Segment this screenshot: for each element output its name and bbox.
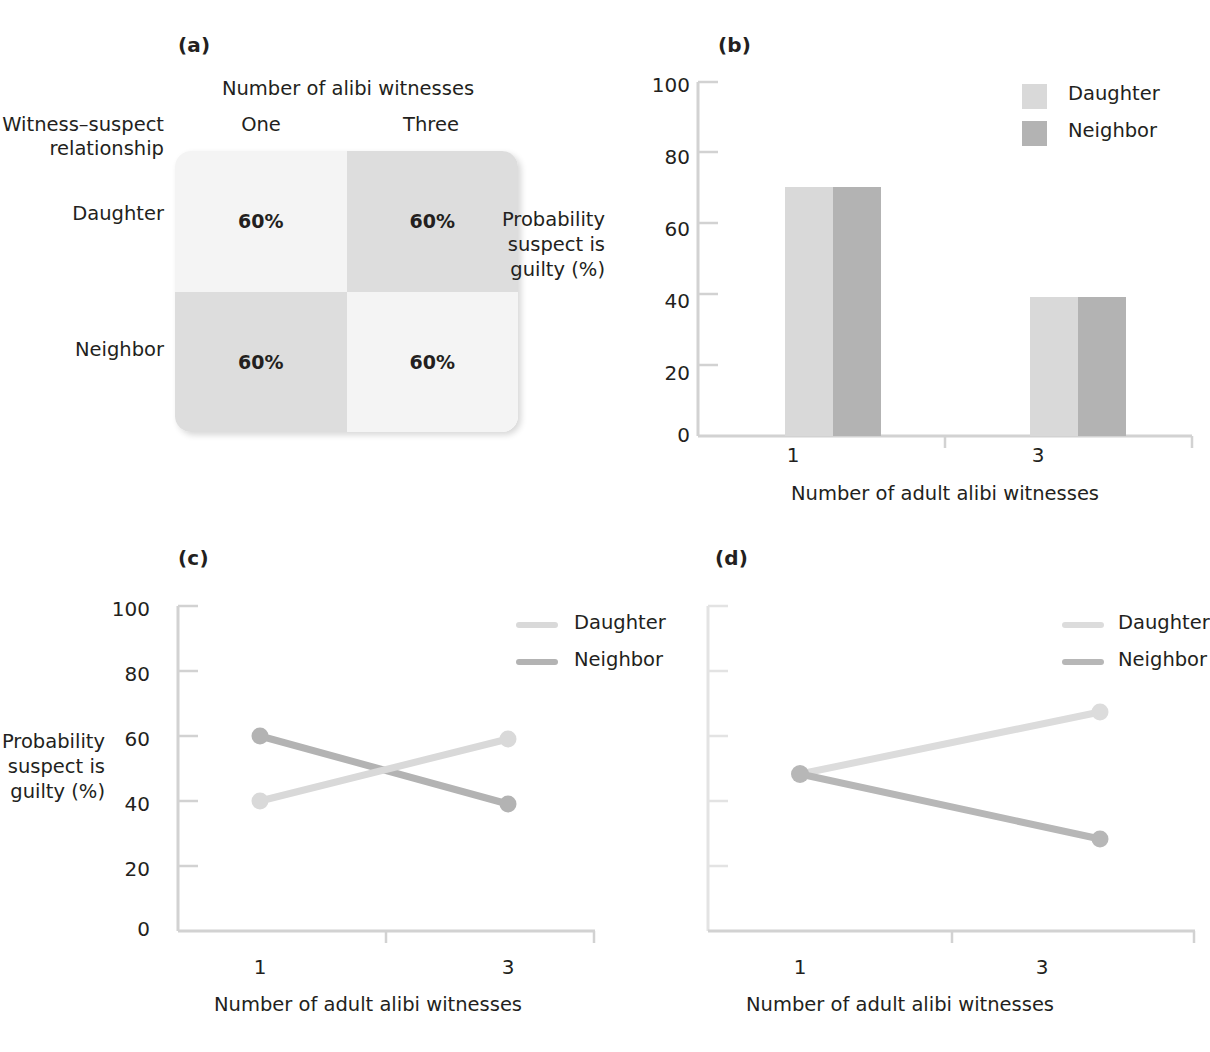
legend-label-neighbor-c: Neighbor <box>574 648 663 672</box>
legend-line-neighbor-c <box>516 659 558 665</box>
heatmap-cell-daughter-three: 60% <box>347 151 519 292</box>
panel-c-label: (c) <box>178 546 209 570</box>
panel-a-row-header-neighbor: Neighbor <box>0 338 164 362</box>
panel-c-xtick-1: 1 <box>180 955 340 979</box>
point-neighbor-c-3 <box>500 796 517 813</box>
panel-c-ytick-100: 100 <box>70 597 150 621</box>
legend-swatch-daughter-b <box>1022 84 1047 109</box>
point-daughter-d-3 <box>1092 704 1109 721</box>
panel-d-xlabel: Number of adult alibi witnesses <box>680 993 1120 1017</box>
panel-b-ylabel-line3: guilty (%) <box>500 257 605 282</box>
line-daughter-d <box>800 712 1100 774</box>
panel-a-column-header-three: Three <box>348 113 514 137</box>
panel-b-ylabel-line2: suspect is <box>500 232 605 257</box>
page-edge-artifact-top <box>188 0 378 9</box>
heatmap-cell-neighbor-three: 60% <box>347 292 519 433</box>
bar-daughter-1 <box>785 187 833 436</box>
line-neighbor-d <box>800 774 1100 839</box>
point-neighbor-c-1 <box>252 728 269 745</box>
panel-d-xtick-3: 3 <box>962 955 1122 979</box>
panel-a-row-group-title-line1: Witness–suspect <box>0 113 164 137</box>
panel-c-plot-area <box>170 604 600 954</box>
point-neighbor-d-3 <box>1092 831 1109 848</box>
panel-a-column-header-one: One <box>178 113 344 137</box>
panel-c-xlabel: Number of adult alibi witnesses <box>148 993 588 1017</box>
panel-d-label: (d) <box>715 546 748 570</box>
legend-swatch-neighbor-b <box>1022 121 1047 146</box>
panel-c-ytick-80: 80 <box>70 662 150 686</box>
legend-label-daughter-c: Daughter <box>574 611 666 635</box>
panel-b-ytick-80: 80 <box>610 145 690 169</box>
panel-b-xtick-3: 3 <box>948 443 1128 467</box>
panel-b-xlabel: Number of adult alibi witnesses <box>690 482 1200 506</box>
bar-neighbor-3 <box>1078 297 1126 436</box>
heatmap-cell-neighbor-one: 60% <box>175 292 347 433</box>
panel-d-xtick-1: 1 <box>720 955 880 979</box>
legend-line-daughter-d <box>1062 622 1104 628</box>
page-edge-artifact-bottom <box>185 1040 605 1052</box>
panel-b-ytick-20: 20 <box>610 361 690 385</box>
bar-daughter-3 <box>1030 297 1078 436</box>
panel-c-ylabel-line2: suspect is <box>0 754 105 779</box>
bar-neighbor-1 <box>833 187 881 436</box>
panel-c-xtick-3: 3 <box>428 955 588 979</box>
panel-a-row-header-daughter: Daughter <box>0 202 164 226</box>
panel-b-ytick-60: 60 <box>610 217 690 241</box>
panel-a-label: (a) <box>178 33 210 57</box>
panel-a-heatmap: 60% 60% 60% 60% <box>175 151 518 432</box>
panel-b-label: (b) <box>718 33 751 57</box>
legend-line-daughter-c <box>516 622 558 628</box>
panel-b-ytick-40: 40 <box>610 289 690 313</box>
panel-c-ylabel-line1: Probability <box>0 729 105 754</box>
legend-label-daughter-b: Daughter <box>1068 82 1160 106</box>
panel-c-ytick-20: 20 <box>70 857 150 881</box>
panel-a-row-group-title-line2: relationship <box>0 137 164 161</box>
panel-c-ylabel-line3: guilty (%) <box>0 779 105 804</box>
panel-b-ytick-0: 0 <box>610 423 690 447</box>
legend-label-neighbor-d: Neighbor <box>1118 648 1207 672</box>
legend-label-daughter-d: Daughter <box>1118 611 1210 635</box>
heatmap-cell-daughter-one: 60% <box>175 151 347 292</box>
point-shared-d-1 <box>791 765 809 783</box>
point-daughter-c-3 <box>500 731 517 748</box>
legend-line-neighbor-d <box>1062 659 1104 665</box>
panel-a-column-group-title: Number of alibi witnesses <box>178 77 518 101</box>
panel-c-ytick-0: 0 <box>70 917 150 941</box>
panel-b-ylabel-line1: Probability <box>500 207 605 232</box>
panel-b-xtick-1: 1 <box>703 443 883 467</box>
panel-b-ytick-100: 100 <box>610 73 690 97</box>
point-daughter-c-1 <box>252 793 269 810</box>
legend-label-neighbor-b: Neighbor <box>1068 119 1157 143</box>
